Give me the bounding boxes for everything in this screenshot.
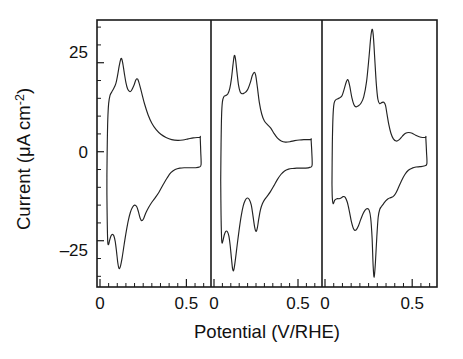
cv-curve-panel-2 (221, 55, 313, 271)
x-axis-ticks (100, 279, 430, 287)
x-tick-labels: 00.500.500.5 (95, 294, 424, 313)
x-axis-title: Potential (V/RHE) (194, 321, 340, 342)
y-tick-label-neg25: –25 (60, 241, 88, 260)
y-axis-title: Current (μA cm-2) (13, 88, 34, 230)
svg-text:Current (μA cm-2): Current (μA cm-2) (13, 88, 34, 230)
y-axis-title-superscript: -2 (13, 94, 27, 105)
cv-panel-3 (332, 29, 427, 277)
cv-figure: Current (μA cm-2) 25 0 –25 00.500.500.5 … (0, 0, 463, 359)
cv-panel-2 (221, 55, 313, 271)
y-axis-title-main: Current (μA cm (13, 105, 34, 230)
cv-curve-panel-1 (107, 58, 201, 268)
y-tick-label-25: 25 (69, 43, 88, 62)
cv-curves-group (107, 29, 427, 277)
cv-curve-panel-3 (332, 29, 427, 277)
y-tick-labels: 25 0 –25 (60, 43, 88, 260)
panel-dividers (211, 20, 322, 287)
y-axis-title-tail: ) (13, 88, 34, 94)
y-axis-ticks (97, 27, 104, 276)
x-tick-label-p2-0: 0 (209, 294, 218, 313)
x-tick-label-p2-1: 0.5 (286, 294, 310, 313)
x-tick-label-p3-1: 0.5 (400, 294, 424, 313)
cv-plot-svg: Current (μA cm-2) 25 0 –25 00.500.500.5 … (0, 0, 463, 359)
cv-panel-1 (107, 58, 201, 268)
x-tick-label-p1-0: 0 (95, 294, 104, 313)
y-tick-label-0: 0 (79, 143, 88, 162)
plot-frame (97, 20, 437, 287)
x-tick-label-p1-1: 0.5 (175, 294, 199, 313)
x-tick-label-p3-0: 0 (320, 294, 329, 313)
